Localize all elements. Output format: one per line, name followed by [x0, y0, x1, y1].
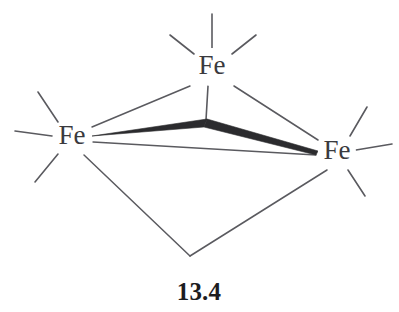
stub-feleft-lower-left — [35, 154, 58, 182]
solid-wedge-bonds — [92, 119, 318, 155]
wedge-feleft-apex — [92, 119, 207, 136]
ligand-stubs-fe-top — [170, 14, 256, 54]
stub-fetop-upper-left — [170, 35, 194, 54]
stub-feright-upper-right — [350, 107, 367, 136]
framework-bonds — [84, 86, 327, 256]
bond-fetop-apex-stub — [206, 86, 208, 120]
stub-feleft-upper-left — [38, 92, 58, 122]
chemical-structure-diagram: Fe Fe Fe 13.4 — [0, 0, 399, 312]
atom-label-fe-left: Fe — [59, 120, 86, 150]
bond-fetop-feleft — [92, 86, 190, 127]
figure-canvas: Fe Fe Fe 13.4 — [0, 0, 399, 312]
bond-feleft-bottom — [84, 155, 190, 256]
ligand-stubs-fe-left — [15, 92, 58, 182]
bond-feright-bottom — [190, 170, 327, 256]
atom-label-fe-top: Fe — [199, 50, 226, 80]
stub-bonds — [206, 86, 208, 120]
stub-feright-lower-right — [348, 170, 365, 196]
figure-caption: 13.4 — [177, 278, 222, 305]
stub-feright-right — [356, 144, 392, 150]
atom-label-fe-right: Fe — [324, 135, 351, 165]
stub-fetop-upper-right — [232, 35, 256, 54]
stub-feleft-left — [15, 131, 52, 136]
